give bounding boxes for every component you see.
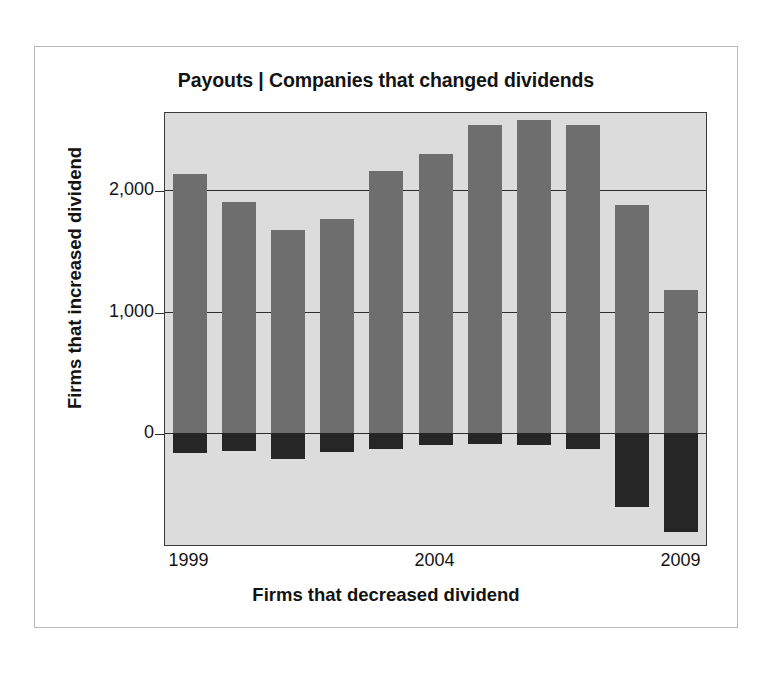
bar-increased-2007: [566, 125, 600, 434]
bar-decreased-2002: [320, 433, 354, 451]
bar-decreased-2006: [517, 433, 551, 445]
y-tick-label: 2,000: [109, 179, 154, 200]
bar-decreased-2007: [566, 433, 600, 448]
bar-increased-2009: [664, 290, 698, 433]
bar-increased-2008: [615, 205, 649, 433]
bar-increased-2000: [222, 202, 256, 434]
x-tick-label: 2009: [660, 550, 700, 571]
bar-decreased-2009: [664, 433, 698, 532]
x-tick-label: 2004: [414, 550, 454, 571]
y-tick-mark: [155, 313, 164, 314]
y-tick-mark: [155, 434, 164, 435]
bar-decreased-2001: [271, 433, 305, 459]
y-tick-label: 1,000: [109, 300, 154, 321]
bar-decreased-2000: [222, 433, 256, 450]
bar-decreased-2004: [419, 433, 453, 445]
bar-decreased-2008: [615, 433, 649, 506]
bar-increased-2001: [271, 230, 305, 433]
bar-increased-2006: [517, 120, 551, 433]
y-tick-label: 0: [144, 422, 154, 443]
plot-area: [164, 112, 707, 546]
y-axis-tick-labels: 2,0001,0000: [80, 112, 154, 544]
bar-increased-2003: [369, 171, 403, 433]
bar-decreased-2003: [369, 433, 403, 448]
bar-decreased-1999: [173, 433, 207, 452]
bar-decreased-2005: [468, 433, 502, 443]
bar-increased-1999: [173, 174, 207, 433]
chart-title: Payouts | Companies that changed dividen…: [35, 69, 737, 92]
bar-increased-2004: [419, 154, 453, 433]
bar-increased-2005: [468, 125, 502, 434]
y-tick-mark: [155, 191, 164, 192]
bar-increased-2002: [320, 219, 354, 433]
figure-frame: Payouts | Companies that changed dividen…: [34, 46, 738, 628]
x-axis-title: Firms that decreased dividend: [35, 584, 737, 606]
x-axis-tick-labels: 199920042009: [164, 550, 705, 576]
x-tick-label: 1999: [169, 550, 209, 571]
